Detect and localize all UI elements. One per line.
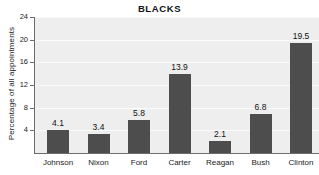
bar xyxy=(250,114,272,153)
y-tick-mark xyxy=(30,108,35,109)
plot-area xyxy=(35,17,319,153)
bar-value-label: 3.4 xyxy=(79,123,119,132)
x-axis-line xyxy=(34,153,319,154)
bar xyxy=(128,120,150,153)
y-tick-mark xyxy=(30,130,35,131)
y-tick-label: 16 xyxy=(8,58,28,66)
bar-value-label: 2.1 xyxy=(200,130,240,139)
y-tick-mark xyxy=(30,85,35,86)
gridline xyxy=(35,17,319,18)
y-tick-label: 20 xyxy=(8,36,28,44)
bar xyxy=(47,130,69,153)
x-tick-label: Clinton xyxy=(274,158,319,167)
y-tick-mark xyxy=(30,17,35,18)
bar-value-label: 4.1 xyxy=(38,119,78,128)
y-tick-label: 12 xyxy=(8,81,28,89)
bar xyxy=(209,141,231,153)
chart-title: BLACKS xyxy=(0,3,319,14)
y-tick-label: 4 xyxy=(8,126,28,134)
y-tick-label: 8 xyxy=(8,104,28,112)
bar-value-label: 19.5 xyxy=(281,32,319,41)
bar-value-label: 13.9 xyxy=(160,63,200,72)
bar xyxy=(290,43,312,154)
bar xyxy=(169,74,191,153)
bar xyxy=(88,134,110,153)
y-tick-mark xyxy=(30,40,35,41)
bar-chart: BLACKS Percentage of all appointments 48… xyxy=(0,0,319,175)
bar-value-label: 6.8 xyxy=(241,103,281,112)
y-tick-mark xyxy=(30,62,35,63)
bar-value-label: 5.8 xyxy=(119,109,159,118)
gridline xyxy=(35,40,319,41)
y-tick-label: 24 xyxy=(8,13,28,21)
